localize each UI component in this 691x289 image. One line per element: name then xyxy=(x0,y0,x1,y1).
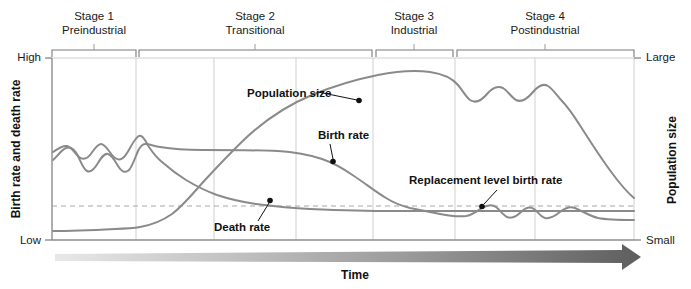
stage-bracket-1 xyxy=(52,44,136,57)
x-axis-title: Time xyxy=(341,268,369,282)
stage-2-subtitle: Transitional xyxy=(225,24,284,36)
left-axis-high-label: High xyxy=(17,51,41,63)
death-rate-dot xyxy=(267,198,273,204)
left-axis-low-label: Low xyxy=(20,234,42,246)
annotation-birth-rate: Birth rate xyxy=(318,129,369,164)
right-axis-title: Population size xyxy=(665,116,679,204)
time-arrow xyxy=(55,244,641,270)
stage-bracket-4 xyxy=(457,44,634,57)
right-axis-large-label: Large xyxy=(646,51,675,63)
stage-4-subtitle: Postindustrial xyxy=(510,24,579,36)
birth-rate-label: Birth rate xyxy=(318,129,369,141)
chart-svg: Stage 1 Preindustrial Stage 2 Transition… xyxy=(0,0,691,289)
right-axis-small-label: Small xyxy=(646,234,675,246)
death-rate-label: Death rate xyxy=(214,221,270,233)
population-size-label: Population size xyxy=(247,87,331,99)
stage-3-title: Stage 3 xyxy=(394,10,434,22)
annotation-replacement-level: Replacement level birth rate xyxy=(409,174,562,209)
annotation-death-rate: Death rate xyxy=(214,198,273,233)
population-size-dot xyxy=(356,98,362,104)
demographic-transition-chart: Stage 1 Preindustrial Stage 2 Transition… xyxy=(0,0,691,289)
stage-bracket-2 xyxy=(139,44,372,57)
stage-3-subtitle: Industrial xyxy=(391,24,438,36)
birth-rate-leader xyxy=(330,144,333,159)
stage-4-title: Stage 4 xyxy=(525,10,565,22)
annotation-population-size: Population size xyxy=(247,87,362,103)
birth-rate-dot xyxy=(330,159,336,165)
stage-1-title: Stage 1 xyxy=(74,10,114,22)
replacement-level-label: Replacement level birth rate xyxy=(409,174,562,186)
plot-axes xyxy=(45,58,641,240)
series-population-size xyxy=(53,71,634,231)
stage-band: Stage 1 Preindustrial Stage 2 Transition… xyxy=(52,10,634,57)
replacement-level-dot xyxy=(479,204,485,210)
stage-1-subtitle: Preindustrial xyxy=(62,24,126,36)
stage-2-title: Stage 2 xyxy=(235,10,275,22)
stage-bracket-3 xyxy=(376,44,453,57)
replacement-level-leader xyxy=(484,190,497,204)
left-axis-title: Birth rate and death rate xyxy=(9,79,23,218)
